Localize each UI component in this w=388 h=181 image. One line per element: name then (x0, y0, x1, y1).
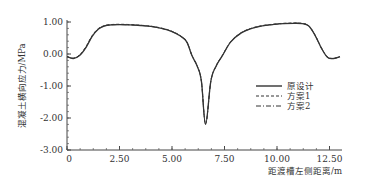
x-tick-label: 2.50 (109, 154, 129, 164)
x-axis-label: 距渡槽左侧距离/m (268, 166, 342, 176)
x-tick-label: 7.50 (214, 154, 234, 164)
stress-line-chart: 混凝土横向应力/MPa 1.000.00-1.00-2.00-3.00 02.5… (0, 0, 388, 181)
y-axis-label: 混凝土横向应力/MPa (17, 44, 27, 129)
x-tick-label: 12.50 (317, 154, 343, 164)
y-ticks: 1.000.00-1.00-2.00-3.00 (40, 17, 71, 155)
x-tick-label: 0 (66, 154, 72, 164)
y-tick-label: -1.00 (40, 81, 63, 91)
x-tick-label: 5.00 (162, 154, 182, 164)
x-tick-label: 10.00 (264, 154, 290, 164)
legend-label-scheme1: 方案1 (287, 91, 310, 101)
legend-label-original: 原设计 (287, 81, 314, 91)
y-tick-label: -2.00 (40, 113, 63, 123)
x-ticks: 02.505.007.5010.0012.50 (66, 146, 343, 164)
legend: 原设计 方案1 方案2 (256, 81, 314, 111)
y-tick-label: 1.00 (43, 17, 63, 27)
y-tick-label: -3.00 (40, 145, 63, 155)
y-tick-label: 0.00 (43, 49, 63, 59)
legend-label-scheme2: 方案2 (287, 101, 310, 111)
